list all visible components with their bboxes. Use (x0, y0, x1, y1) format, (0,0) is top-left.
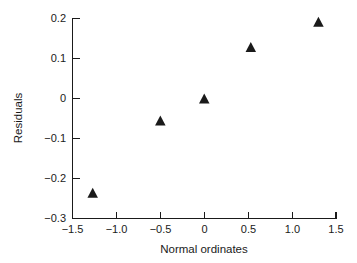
data-point-marker (87, 188, 98, 198)
y-axis-ticks (73, 19, 80, 179)
x-tick-label-2: −0.5 (150, 223, 172, 235)
scatter-plot-canvas: 0.2 0.1 0 −0.1 −0.2 −0.3 −1.5 −1.0 −0.5 … (0, 0, 357, 263)
x-tick-label-5: 1.0 (285, 223, 300, 235)
x-tick-label-3: 0 (201, 223, 207, 235)
y-axis-tick-labels: 0.2 0.1 0 −0.1 −0.2 −0.3 (44, 12, 66, 224)
y-tick-label-1: 0.1 (51, 52, 66, 64)
axis-spines (73, 18, 337, 219)
x-tick-label-1: −1.0 (106, 223, 128, 235)
data-point-marker (155, 115, 166, 125)
y-tick-label-0: 0.2 (51, 12, 66, 24)
y-axis-title: Residuals (12, 93, 24, 144)
x-tick-label-6: 1.5 (328, 223, 343, 235)
x-axis-ticks (117, 212, 337, 219)
x-tick-label-0: −1.5 (62, 223, 84, 235)
axis-spine-path (73, 18, 337, 219)
x-axis-title: Normal ordinates (160, 243, 248, 255)
data-point-marker (246, 42, 256, 52)
y-tick-label-2: 0 (60, 92, 66, 104)
y-tick-label-4: −0.2 (44, 172, 66, 184)
x-tick-label-4: 0.5 (241, 223, 256, 235)
normal-probability-plot-figure: 0.2 0.1 0 −0.1 −0.2 −0.3 −1.5 −1.0 −0.5 … (0, 0, 357, 263)
x-axis-tick-labels: −1.5 −1.0 −0.5 0 0.5 1.0 1.5 (62, 223, 344, 235)
data-point-marker (313, 17, 324, 27)
data-point-marker (199, 93, 210, 103)
y-tick-label-3: −0.1 (44, 132, 66, 144)
data-point-group (87, 17, 323, 198)
